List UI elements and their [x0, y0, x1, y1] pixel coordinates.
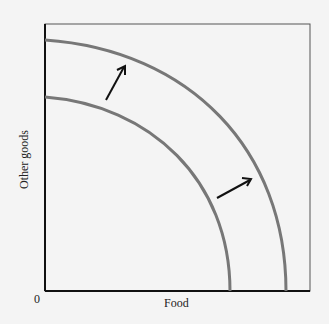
- shift-arrow-icon: [217, 178, 251, 198]
- original-ppf-curve: [45, 97, 230, 291]
- shift-arrow-icon: [106, 66, 125, 100]
- y-axis-label: Other goods: [17, 120, 32, 200]
- x-axis-label: Food: [164, 296, 189, 311]
- origin-label: 0: [34, 292, 40, 307]
- shifted-ppf-curve: [45, 40, 286, 291]
- ppf-diagram: [0, 0, 329, 324]
